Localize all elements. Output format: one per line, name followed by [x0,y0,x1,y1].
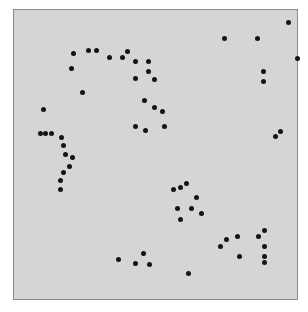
data-point [133,59,138,64]
data-point [224,237,229,242]
data-point [235,234,240,239]
data-point [152,105,157,110]
data-point [147,262,152,267]
data-point [49,131,54,136]
data-point [133,124,138,129]
data-point [295,56,300,61]
data-point [146,69,151,74]
data-point [69,66,74,71]
data-point [41,107,46,112]
data-point [178,185,183,190]
data-point [262,260,267,265]
data-point [184,181,189,186]
data-point [143,128,148,133]
data-point [63,152,68,157]
data-point [125,49,130,54]
data-point [107,55,112,60]
plot-frame [13,9,298,300]
data-point [61,143,66,148]
data-point [175,206,180,211]
data-point [133,261,138,266]
data-point [199,211,204,216]
data-point [58,178,63,183]
data-point [160,109,165,114]
data-point [94,48,99,53]
data-point [70,155,75,160]
data-point [218,244,223,249]
data-point [256,234,261,239]
data-point [162,124,167,129]
data-point [86,48,91,53]
data-point [262,228,267,233]
data-point [152,77,157,82]
data-point [273,134,278,139]
data-point [194,195,199,200]
data-point [142,98,147,103]
data-point [261,69,266,74]
data-point [186,271,191,276]
data-point [278,129,283,134]
data-point [262,244,267,249]
data-point [133,76,138,81]
data-point [141,251,146,256]
data-point [171,187,176,192]
scatter-plot-figure [0,0,308,312]
data-point [116,257,121,262]
data-point [189,206,194,211]
data-point [58,187,63,192]
data-point [71,51,76,56]
data-point [261,79,266,84]
data-point [255,36,260,41]
data-point [262,254,267,259]
data-point [286,20,291,25]
plot-area [14,10,297,299]
data-point [178,217,183,222]
data-point [67,164,72,169]
data-point [43,131,48,136]
data-point [146,59,151,64]
data-point [59,135,64,140]
data-point [120,55,125,60]
data-point [222,36,227,41]
data-point [61,170,66,175]
data-point [237,254,242,259]
data-point [80,90,85,95]
